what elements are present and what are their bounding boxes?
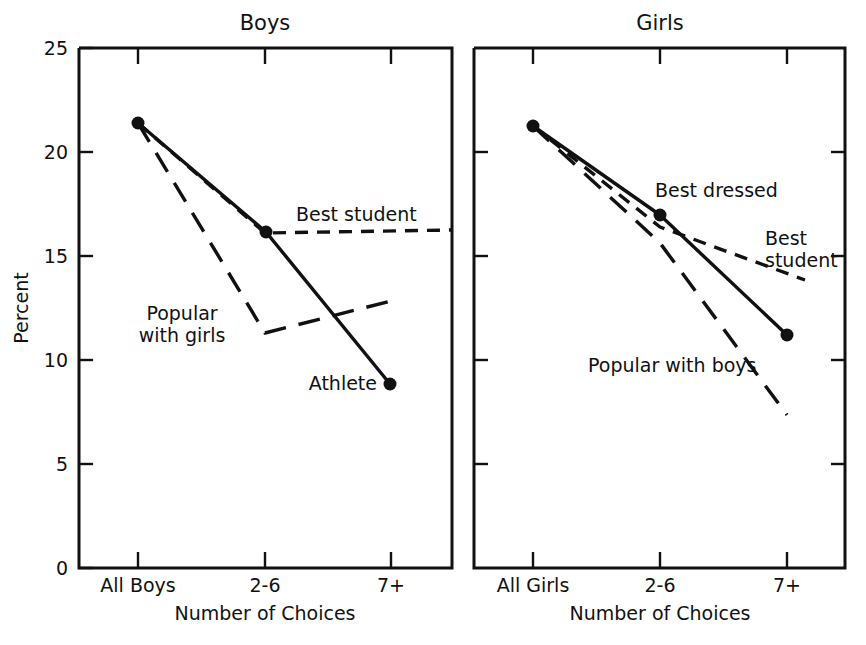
annotation-popular-with-boys: Popular with boys bbox=[588, 354, 756, 376]
panel-title-girls: Girls bbox=[636, 11, 684, 35]
xtick-label-2-6-left: 2-6 bbox=[249, 574, 280, 596]
ytick-label-10: 10 bbox=[44, 349, 68, 371]
xtick-label-all-boys: All Boys bbox=[100, 574, 175, 596]
ytick-label-0: 0 bbox=[56, 557, 68, 579]
marker-best-dressed-2-6 bbox=[654, 209, 667, 222]
ytick-label-20: 20 bbox=[44, 141, 68, 163]
figure-container: Boys 25 20 15 10 5 0 Percent bbox=[0, 0, 866, 645]
ytick-label-15: 15 bbox=[44, 245, 68, 267]
marker-athlete-7plus bbox=[384, 378, 397, 391]
panel-boys: Boys 25 20 15 10 5 0 Percent bbox=[10, 11, 452, 624]
two-panel-line-chart: Boys 25 20 15 10 5 0 Percent bbox=[0, 0, 866, 645]
marker-best-dressed-all-girls bbox=[527, 120, 540, 133]
annotation-popular-with-girls-line2: with girls bbox=[139, 324, 226, 346]
marker-athlete-all-boys bbox=[132, 117, 145, 130]
ytick-label-5: 5 bbox=[56, 453, 68, 475]
annotation-athlete: Athlete bbox=[309, 372, 377, 394]
xtick-label-7plus-left: 7+ bbox=[377, 574, 405, 596]
panel-title-boys: Boys bbox=[240, 11, 291, 35]
xtick-label-2-6-right: 2-6 bbox=[644, 574, 675, 596]
annotation-best-student-boys: Best student bbox=[296, 203, 417, 225]
xtick-label-7plus-right: 7+ bbox=[773, 574, 801, 596]
marker-best-dressed-7plus bbox=[781, 329, 794, 342]
panel-girls: Girls bbox=[474, 11, 845, 624]
ytick-label-25: 25 bbox=[44, 37, 68, 59]
annotation-best-student-girls-line2: student bbox=[765, 249, 838, 271]
annotation-popular-with-girls-line1: Popular bbox=[146, 302, 217, 324]
x-axis-title-left: Number of Choices bbox=[175, 602, 356, 624]
annotation-best-dressed: Best dressed bbox=[655, 179, 778, 201]
xtick-label-all-girls: All Girls bbox=[497, 574, 570, 596]
x-axis-title-right: Number of Choices bbox=[570, 602, 751, 624]
annotation-best-student-girls-line1: Best bbox=[765, 227, 807, 249]
y-axis-title: Percent bbox=[10, 272, 32, 344]
y-axis-ticks-boys bbox=[79, 48, 93, 568]
x-axis-ticks-girls bbox=[533, 48, 787, 568]
marker-athlete-2-6 bbox=[260, 226, 273, 239]
